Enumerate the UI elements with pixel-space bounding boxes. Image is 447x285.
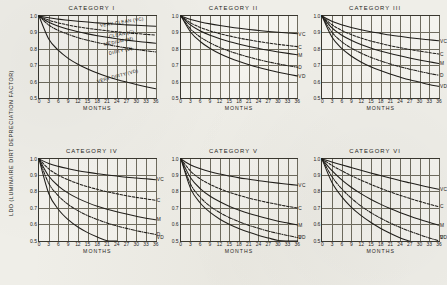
y-axis-tick-label: 0.9: [30, 29, 37, 35]
x-axis-tick-label: 36: [295, 99, 300, 104]
x-axis-tick-label: 6: [57, 242, 60, 247]
x-axis-tick-label: 30: [133, 99, 138, 104]
panel-title: CATEGORY II: [166, 5, 302, 13]
curve-c: [322, 159, 439, 207]
curve-vd: [39, 159, 117, 241]
x-axis-tick-label: 27: [124, 242, 129, 247]
curve-edge-label-vc: VC: [440, 186, 447, 191]
y-axis-tick-label: 0.5: [313, 238, 320, 244]
x-axis-tick-label: 15: [85, 242, 90, 247]
x-axis-tick-label: 9: [67, 242, 70, 247]
x-axis-tick-label: 18: [236, 99, 241, 104]
x-axis-tick-label: 21: [104, 242, 109, 247]
gridline-vertical: [297, 159, 298, 241]
curve-vd: [181, 16, 298, 76]
y-axis-tick-label: 0.5: [30, 238, 37, 244]
chart-panel-category-i: CATEGORY I 03691215182124273033361.00.90…: [22, 0, 164, 143]
x-axis-tick-label: 30: [417, 242, 422, 247]
x-axis-tick-label: 27: [124, 99, 129, 104]
plot-area: 03691215182124273033361.00.90.80.70.60.5…: [180, 158, 299, 242]
y-axis-tick-label: 1.0: [172, 13, 179, 19]
x-axis-title: MONTHS: [181, 105, 298, 111]
y-axis-tick-label: 0.6: [313, 221, 320, 227]
y-axis-tick-label: 0.9: [30, 172, 37, 178]
x-axis-tick-label: 24: [397, 242, 402, 247]
y-axis-tick-label: 0.7: [30, 62, 37, 68]
y-axis-tick-label: 0.6: [172, 79, 179, 85]
curve-edge-label-d: D: [298, 65, 302, 70]
curve-vc: [322, 16, 439, 41]
chart-panel-category-vi: CATEGORY VI 03691215182124273033361.00.9…: [305, 143, 447, 285]
x-axis-tick-label: 15: [368, 99, 373, 104]
curve-edge-label-m: M: [157, 217, 161, 222]
x-axis-tick-label: 33: [427, 242, 432, 247]
x-axis-tick-label: 33: [427, 99, 432, 104]
x-axis-tick-label: 36: [436, 242, 441, 247]
x-axis-title: MONTHS: [39, 105, 156, 111]
x-axis-tick-label: 21: [388, 242, 393, 247]
x-axis-tick-label: 0: [321, 99, 324, 104]
x-axis-tick-label: 6: [340, 242, 343, 247]
x-axis-tick-label: 21: [246, 99, 251, 104]
plot-area: 03691215182124273033361.00.90.80.70.60.5…: [38, 158, 157, 242]
y-axis-tick-label: 1.0: [30, 13, 37, 19]
chart-panel-category-iii: CATEGORY III 03691215182124273033361.00.…: [305, 0, 447, 143]
curve-edge-label-vc: VC: [440, 38, 447, 43]
panel-title: CATEGORY III: [307, 5, 443, 13]
x-axis-tick-label: 15: [227, 242, 232, 247]
y-axis-tick-label: 0.9: [313, 172, 320, 178]
chart-panel-category-iv: CATEGORY IV 03691215182124273033361.00.9…: [22, 143, 164, 285]
y-axis-tick-label: 0.7: [313, 205, 320, 211]
curve-m: [322, 159, 439, 225]
x-axis-tick-label: 6: [57, 99, 60, 104]
x-axis-title: MONTHS: [181, 248, 298, 254]
curve-vc: [181, 16, 298, 34]
curves-layer: [181, 159, 298, 241]
x-axis-tick-label: 12: [217, 242, 222, 247]
x-axis-tick-label: 27: [407, 99, 412, 104]
x-axis-title: MONTHS: [322, 248, 439, 254]
curve-vc: [181, 159, 298, 185]
x-axis-tick-label: 9: [67, 99, 70, 104]
x-axis-tick-label: 3: [189, 99, 192, 104]
x-axis-tick-label: 36: [153, 99, 158, 104]
curve-edge-label-m: M: [298, 52, 302, 57]
plot-area: 03691215182124273033361.00.90.80.70.60.5…: [38, 15, 157, 99]
x-axis-tick-label: 24: [256, 242, 261, 247]
x-axis-tick-label: 3: [331, 99, 334, 104]
y-axis-tick-label: 0.9: [172, 172, 179, 178]
y-axis-tick-label: 0.9: [172, 29, 179, 35]
y-axis-tick-label: 0.8: [30, 188, 37, 194]
plot-area: 03691215182124273033361.00.90.80.70.60.5…: [180, 15, 299, 99]
y-axis-tick-label: 0.8: [313, 188, 320, 194]
x-axis-tick-label: 30: [133, 242, 138, 247]
x-axis-tick-label: 24: [256, 99, 261, 104]
x-axis-tick-label: 3: [47, 99, 50, 104]
ldd-chart-figure: LDD (LUMINAIRE DIRT DEPRECIATION FACTOR)…: [0, 0, 447, 285]
curve-m: [181, 159, 298, 225]
x-axis-tick-label: 18: [378, 242, 383, 247]
x-axis-tick-label: 30: [275, 99, 280, 104]
y-axis-tick-label: 0.5: [172, 95, 179, 101]
y-axis-tick-label: 0.7: [30, 205, 37, 211]
y-axis-tick-label: 0.7: [172, 205, 179, 211]
x-axis-tick-label: 9: [350, 242, 353, 247]
y-axis-tick-label: 0.6: [172, 221, 179, 227]
curves-layer: [322, 159, 439, 241]
x-axis-tick-label: 24: [397, 99, 402, 104]
x-axis-tick-label: 18: [378, 99, 383, 104]
curve-d: [39, 159, 156, 234]
curve-edge-label-d: D: [440, 73, 444, 78]
curve-edge-label-m: M: [440, 222, 444, 227]
x-axis-tick-label: 6: [199, 242, 202, 247]
curves-layer: [39, 159, 156, 241]
gridline-vertical: [156, 16, 157, 98]
x-axis-tick-label: 0: [179, 242, 182, 247]
y-axis-tick-label: 0.9: [313, 29, 320, 35]
plot-area: 03691215182124273033361.00.90.80.70.60.5…: [321, 15, 440, 99]
x-axis-tick-label: 27: [265, 242, 270, 247]
y-axis-label: LDD (LUMINAIRE DIRT DEPRECIATION FACTOR): [8, 70, 14, 216]
x-axis-tick-label: 21: [246, 242, 251, 247]
curve-edge-label-vd: VD: [440, 235, 447, 240]
x-axis-tick-label: 0: [38, 242, 41, 247]
